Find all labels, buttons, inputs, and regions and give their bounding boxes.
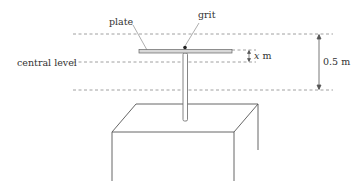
- x-unit: m: [259, 50, 271, 61]
- grit-leader-line: [185, 23, 199, 46]
- x-m-label: x m: [254, 50, 271, 61]
- x-displacement-arrow: [248, 51, 251, 62]
- plate-leader-line: [133, 25, 147, 50]
- amplitude-label: 0.5 m: [323, 56, 350, 67]
- vertical-rod: [183, 53, 188, 121]
- amplitude-arrow: [317, 35, 321, 90]
- diagram-canvas: plate grit central level x m 0.5 m: [0, 0, 357, 181]
- plate-label: plate: [109, 16, 134, 27]
- plate: [139, 50, 232, 54]
- grit-label: grit: [198, 9, 216, 20]
- central-level-label: central level: [17, 57, 77, 68]
- grit-particle: [183, 46, 187, 50]
